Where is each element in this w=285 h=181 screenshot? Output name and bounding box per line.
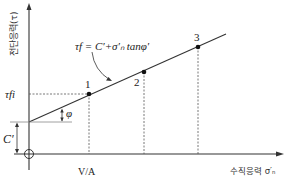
x-tick-va-label: V/A — [78, 166, 96, 177]
y-axis-label: 전단응력(τ) — [8, 12, 19, 56]
point-3-label: 3 — [194, 31, 200, 43]
point-1 — [87, 92, 92, 97]
point-2 — [142, 70, 147, 75]
point-1-label: 1 — [85, 78, 91, 90]
phi-label: φ — [66, 107, 72, 119]
x-axis-label: 수직응력 σ′ₙ — [230, 166, 275, 176]
cohesion-dimension — [15, 123, 19, 154]
phi-angle-marker — [60, 109, 63, 122]
x-axis-arrow-icon — [276, 152, 284, 157]
cohesion-label: C′ — [3, 132, 14, 146]
point-2-label: 2 — [134, 76, 140, 88]
arrow-up-icon — [15, 123, 19, 128]
tau-fi-label: τfi — [5, 88, 15, 100]
equation-leader-line — [92, 52, 110, 80]
equation-label: τf = C′+σ′ₙ tanφ′ — [75, 40, 150, 52]
x-axis — [14, 152, 284, 157]
arrow-down-icon — [15, 149, 19, 154]
point-3 — [196, 45, 201, 50]
y-axis — [27, 3, 32, 170]
y-axis-arrow-icon — [27, 3, 32, 10]
diagram-canvas: 1 2 3 τf = C′+σ′ₙ tanφ′ τfi C′ φ V/A 수직응… — [0, 0, 285, 181]
